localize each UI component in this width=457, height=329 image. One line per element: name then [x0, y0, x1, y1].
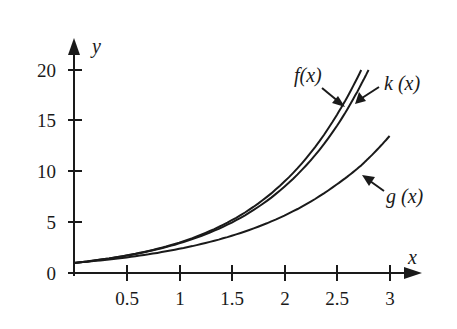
x-tick-labels: 0.5 1 1.5 2 2.5 3 [115, 288, 395, 309]
x-tick-label: 2 [280, 288, 290, 309]
curve-f [74, 70, 361, 263]
curves [74, 70, 390, 263]
y-tick-label: 5 [47, 212, 57, 233]
y-axis-arrow-icon [68, 38, 80, 55]
y-tick-label: 20 [37, 60, 56, 81]
label-g: g (x) [386, 185, 424, 208]
x-tick-label: 3 [385, 288, 395, 309]
y-tick-label: 10 [37, 161, 56, 182]
x-axis-arrow-icon [404, 267, 422, 279]
label-f: f(x) [294, 64, 322, 87]
annotation-g: g (x) [362, 175, 424, 208]
x-tick-label: 0.5 [115, 288, 139, 309]
x-axis [68, 267, 422, 279]
x-tick-label: 1 [175, 288, 185, 309]
label-k: k (x) [384, 72, 420, 95]
chart: 20 15 10 5 0 0.5 1 1.5 2 2.5 3 y x f(x) … [0, 0, 457, 329]
annotation-f: f(x) [294, 64, 345, 107]
curve-g [74, 136, 390, 263]
curve-k [74, 70, 369, 263]
y-tick-labels: 20 15 10 5 0 [37, 60, 56, 284]
x-axis-label: x [407, 246, 417, 268]
x-tick-label: 1.5 [220, 288, 244, 309]
x-tick-label: 2.5 [325, 288, 349, 309]
y-tick-label: 15 [37, 110, 56, 131]
y-axis [68, 38, 80, 276]
y-tick-label: 0 [47, 263, 57, 284]
y-axis-label: y [90, 35, 101, 58]
